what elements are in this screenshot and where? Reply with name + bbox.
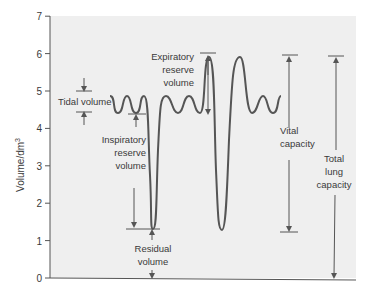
x-axis xyxy=(50,278,356,280)
svg-text:reserve: reserve xyxy=(114,147,146,158)
svg-text:6: 6 xyxy=(36,49,42,60)
svg-text:Total: Total xyxy=(324,153,344,164)
svg-text:5: 5 xyxy=(36,86,42,97)
svg-text:3: 3 xyxy=(36,161,42,172)
svg-text:7: 7 xyxy=(36,11,42,22)
svg-text:reserve: reserve xyxy=(162,64,194,75)
tidal-volume-label: Tidal volume xyxy=(58,96,112,107)
svg-text:Vital: Vital xyxy=(280,125,298,136)
svg-text:Expiratory: Expiratory xyxy=(151,51,194,62)
y-axis xyxy=(45,16,50,278)
svg-text:volume: volume xyxy=(115,160,146,171)
y-tick-labels: 0 1 2 3 4 5 6 7 xyxy=(36,11,42,284)
svg-text:4: 4 xyxy=(36,123,42,134)
svg-text:Residual: Residual xyxy=(135,243,172,254)
svg-text:0: 0 xyxy=(36,273,42,284)
svg-text:capacity: capacity xyxy=(280,138,315,149)
svg-text:2: 2 xyxy=(36,198,42,209)
svg-text:Inspiratory: Inspiratory xyxy=(102,134,147,145)
svg-text:lung: lung xyxy=(325,166,343,177)
y-axis-label: Volume/dm3 xyxy=(14,138,26,192)
lung-volume-diagram: 0 1 2 3 4 5 6 7 Volume/dm3 Tidal volume … xyxy=(0,0,369,301)
svg-text:volume: volume xyxy=(138,256,169,267)
svg-text:capacity: capacity xyxy=(317,179,352,190)
svg-text:volume: volume xyxy=(163,77,194,88)
svg-text:1: 1 xyxy=(36,236,42,247)
